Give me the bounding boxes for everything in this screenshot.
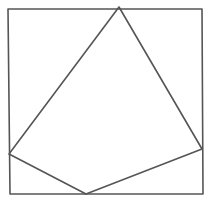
inscribed-quadrilateral	[9, 7, 202, 194]
diagram-canvas	[0, 0, 211, 205]
